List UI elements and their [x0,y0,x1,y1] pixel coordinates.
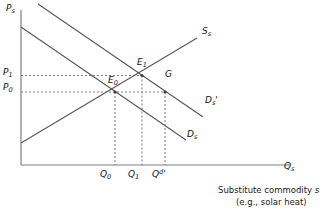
point-marker-group [114,74,167,94]
x-axis-label: Qs [284,162,294,171]
equilibrium-e0-label: E0 [108,76,118,85]
price-tick-p0-label: P0 [3,83,13,92]
demand-curve-shifted [38,4,203,117]
demand-shifted-curve-label: Ds' [205,96,218,105]
figure-caption-line-2: (e.g., solar heat) [236,197,307,208]
demand-original-curve-label: Ds [187,130,197,139]
supply-curve-label: Ss [202,27,211,36]
price-tick-p1-label: P1 [3,68,13,77]
y-axis-label: Ps [6,4,15,13]
point-e1-marker [141,74,144,77]
axis-group [21,10,290,165]
reference-line-group [21,76,165,166]
quantity-tick-qd-label: Qd' [152,170,166,179]
point-g-marker [164,91,167,94]
point-g-label: G [165,70,172,79]
plot-canvas [0,0,328,213]
equilibrium-e1-label: E1 [137,58,147,67]
supply-demand-figure: Ps Qs Ss Ds' Ds E1 E0 G P1 P0 Q0 Q1 Qd' … [0,0,328,213]
supply-curve [21,38,197,143]
figure-caption-line-1: Substitute commodity s [218,185,319,196]
quantity-tick-q0-label: Q0 [100,170,111,179]
point-e0-marker [114,91,117,94]
demand-curve-original [21,27,186,140]
quantity-tick-q1-label: Q1 [128,170,139,179]
